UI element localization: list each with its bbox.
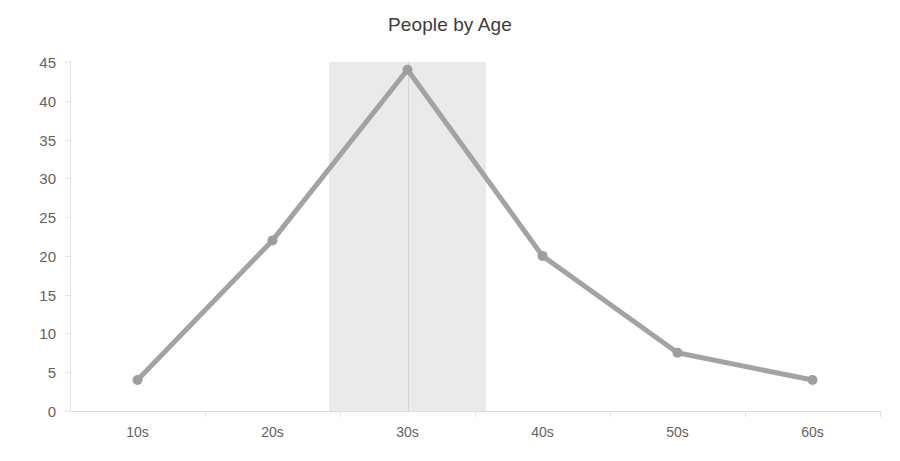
y-tick-label: 10 (14, 325, 56, 342)
data-point-60s (808, 375, 818, 385)
x-tick-label-30s: 30s (363, 424, 453, 440)
y-tick-mark (65, 140, 71, 141)
y-tick-mark (65, 411, 71, 412)
y-tick-label: 15 (14, 286, 56, 303)
x-tick-mark (340, 411, 341, 417)
x-tick-label-50s: 50s (633, 424, 723, 440)
y-tick-label: 0 (14, 403, 56, 420)
y-tick-mark (65, 256, 71, 257)
y-tick-label: 25 (14, 209, 56, 226)
chart-title: People by Age (0, 14, 900, 36)
y-tick-label: 45 (14, 54, 56, 71)
y-tick-mark (65, 295, 71, 296)
y-tick-label: 5 (14, 364, 56, 381)
x-tick-mark (205, 411, 206, 417)
data-point-50s (673, 348, 683, 358)
y-tick-mark (65, 333, 71, 334)
x-tick-label-60s: 60s (768, 424, 858, 440)
x-tick-label-20s: 20s (228, 424, 318, 440)
y-tick-mark (65, 178, 71, 179)
x-tick-mark (475, 411, 476, 417)
x-tick-mark (880, 411, 881, 417)
x-axis-line (70, 411, 882, 412)
y-axis-line (70, 60, 71, 412)
data-point-40s (538, 251, 548, 261)
y-tick-mark (65, 62, 71, 63)
y-tick-label: 30 (14, 170, 56, 187)
x-tick-mark (745, 411, 746, 417)
y-tick-mark (65, 217, 71, 218)
y-tick-label: 40 (14, 92, 56, 109)
chart-container: People by Age 051015202530354045 10s20s3… (0, 0, 900, 461)
y-tick-label: 35 (14, 131, 56, 148)
data-point-10s (133, 375, 143, 385)
y-tick-mark (65, 101, 71, 102)
y-tick-label: 20 (14, 247, 56, 264)
data-point-20s (268, 235, 278, 245)
center-reference-line (408, 62, 409, 411)
x-tick-label-10s: 10s (93, 424, 183, 440)
x-tick-label-40s: 40s (498, 424, 588, 440)
y-tick-mark (65, 372, 71, 373)
x-tick-mark (610, 411, 611, 417)
